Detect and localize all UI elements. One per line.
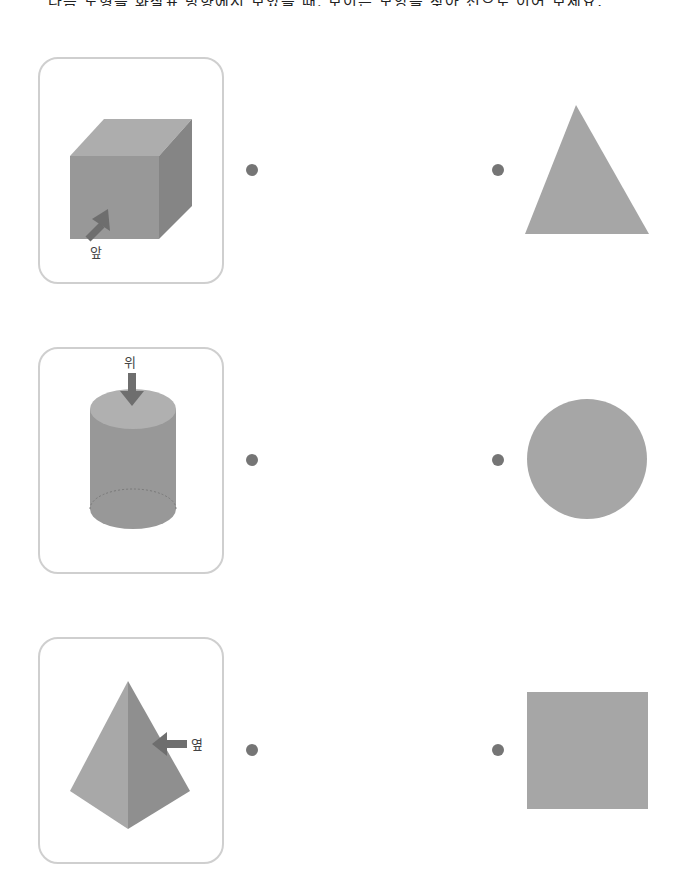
cylinder-figure: 위 <box>40 349 226 576</box>
instruction-text: 다음 도형을 화살표 방향에서 보았을 때, 보이는 모양을 찾아 선으로 이어… <box>0 0 682 6</box>
pyramid-figure: 옆 <box>40 639 226 866</box>
right-dot-3[interactable] <box>492 744 504 756</box>
circle-shape <box>524 396 650 522</box>
card-pyramid: 옆 <box>38 637 224 864</box>
left-dot-1[interactable] <box>246 164 258 176</box>
left-dot-3[interactable] <box>246 744 258 756</box>
card-cylinder: 위 <box>38 347 224 574</box>
square-shape <box>527 692 648 809</box>
label-front: 앞 <box>90 245 102 260</box>
card-cube: 앞 <box>38 57 224 284</box>
label-side: 옆 <box>191 737 203 752</box>
label-top: 위 <box>124 355 136 370</box>
cube-figure: 앞 <box>40 59 226 286</box>
right-dot-2[interactable] <box>492 454 504 466</box>
left-dot-2[interactable] <box>246 454 258 466</box>
right-dot-1[interactable] <box>492 164 504 176</box>
triangle-shape <box>520 100 654 240</box>
